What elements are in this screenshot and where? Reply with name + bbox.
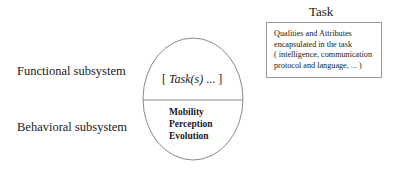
task-box-line: encapsulated in the task <box>274 40 377 51</box>
task-box-line: ( intelligence, communication <box>274 50 377 61</box>
behavior-evolution: Evolution <box>169 130 213 142</box>
task-box-line: protocol and language, ... ) <box>274 61 377 72</box>
behavior-list: Mobility Perception Evolution <box>169 106 213 142</box>
task-box-line: Qualities and Attributes <box>274 29 377 40</box>
behavior-mobility: Mobility <box>169 106 213 118</box>
behavioral-subsystem-label: Behavioral subsystem <box>17 120 127 135</box>
task-attributes-box: Qualities and Attributes encapsulated in… <box>266 22 382 78</box>
functional-subsystem-label: Functional subsystem <box>17 64 126 79</box>
behavior-perception: Perception <box>169 118 213 130</box>
task-box-title: Task <box>309 4 333 20</box>
task-list-text: [ Task(s) ... ] <box>162 72 222 87</box>
